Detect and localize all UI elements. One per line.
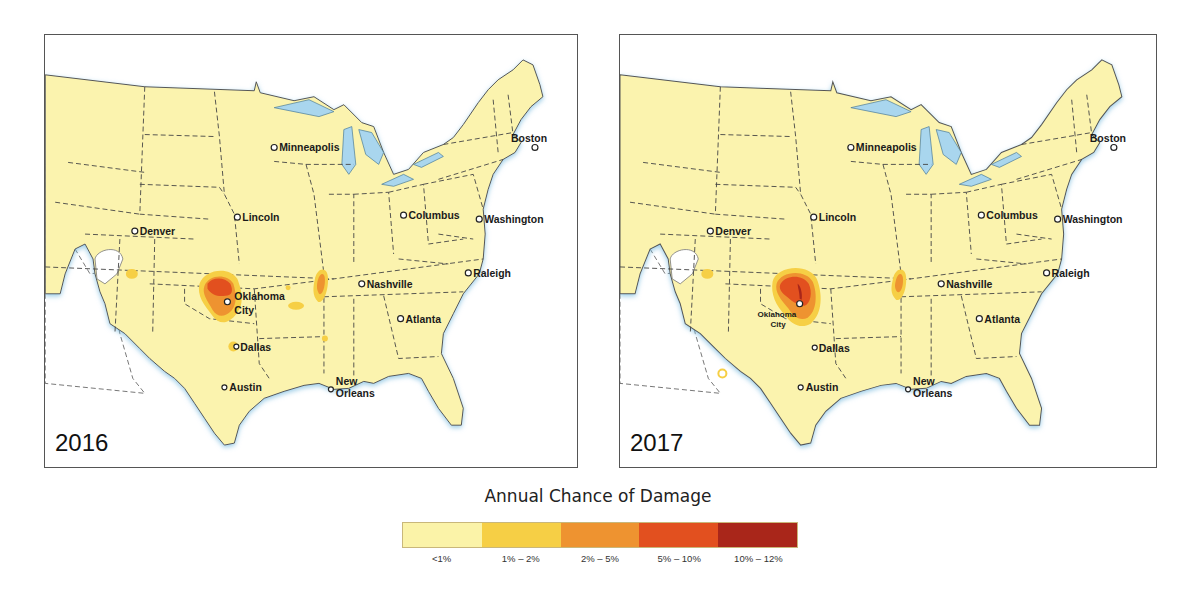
city-label: Washington: [484, 214, 543, 225]
year-label-2017: 2017: [630, 429, 683, 457]
city-label: Columbus: [409, 210, 460, 221]
city-label: Oklahoma: [758, 310, 797, 319]
city-label: Columbus: [986, 210, 1038, 221]
city-label: City: [771, 320, 787, 329]
city-label: New: [913, 376, 935, 387]
city-label: Dallas: [819, 343, 850, 354]
legend-label: 5% – 10%: [640, 553, 719, 564]
legend-label: 10% – 12%: [719, 553, 798, 564]
city-label: Atlanta: [984, 314, 1020, 325]
legend-color-bar: [402, 522, 798, 548]
legend-label: 1% – 2%: [481, 553, 560, 564]
legend-swatch-10-12: [718, 523, 797, 547]
hazard-map-2017: Minneapolis Boston Lincoln Columbus Wash…: [619, 34, 1157, 468]
legend-swatch-2-5: [561, 523, 640, 547]
legend-swatch-lt1: [403, 523, 482, 547]
city-label: Minneapolis: [856, 142, 917, 153]
city-label: Orleans: [913, 388, 952, 399]
city-label: Austin: [806, 382, 839, 393]
city-label: Orleans: [336, 388, 375, 399]
legend-label: <1%: [402, 553, 481, 564]
city-label: Boston: [511, 133, 547, 144]
city-label: Denver: [140, 226, 175, 237]
city-label: Raleigh: [1052, 268, 1090, 279]
legend-swatch-1-2: [482, 523, 561, 547]
city-label: City: [234, 305, 254, 316]
city-label: Dallas: [240, 342, 271, 353]
legend-swatch-5-10: [639, 523, 718, 547]
city-label: Nashville: [946, 279, 992, 290]
city-label: New: [336, 376, 358, 387]
city-label: Oklahoma: [234, 291, 285, 302]
year-label-2016: 2016: [55, 429, 108, 457]
us-map-2017: Minneapolis Boston Lincoln Columbus Wash…: [620, 35, 1156, 467]
legend-title: Annual Chance of Damage: [0, 486, 1196, 506]
city-label: Austin: [229, 382, 261, 393]
city-label: Boston: [1090, 133, 1126, 144]
legend-label: 2% – 5%: [560, 553, 639, 564]
city-label: Washington: [1063, 214, 1123, 225]
city-label: Lincoln: [242, 212, 279, 223]
city-label: Minneapolis: [279, 142, 340, 153]
city-label: Raleigh: [473, 268, 511, 279]
legend-labels: <1% 1% – 2% 2% – 5% 5% – 10% 10% – 12%: [402, 553, 798, 564]
us-map-2016: Minneapolis Boston Lincoln Columbus Wash…: [45, 35, 577, 467]
city-label: Atlanta: [406, 314, 442, 325]
city-label: Denver: [715, 226, 751, 237]
city-label: Nashville: [367, 279, 413, 290]
hazard-map-2016: Minneapolis Boston Lincoln Columbus Wash…: [44, 34, 578, 468]
city-label: Lincoln: [819, 212, 856, 223]
